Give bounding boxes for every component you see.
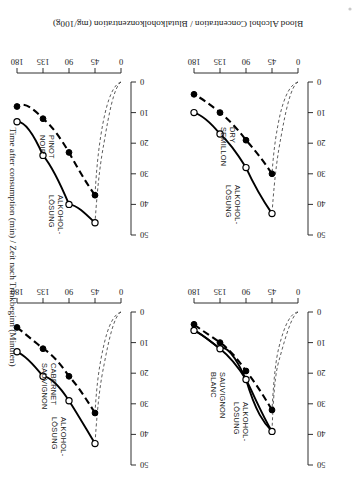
panel-d-ytick-20: 20 <box>140 138 149 148</box>
panel-c-xtick-135: 135 <box>214 57 227 67</box>
panel-c-ytick-20: 20 <box>317 138 326 148</box>
panel-a-point-alcohol-135 <box>217 346 223 352</box>
panel-c-point-wine-45 <box>269 171 275 177</box>
panel-a-label-alcohol-line2: LÖSUNG <box>232 402 241 435</box>
panel-b-xtick-45: 45 <box>91 287 100 297</box>
panel-b-x-axis: 0 45 90 135 180 <box>11 287 124 303</box>
panel-a-point-wine-180 <box>191 321 197 327</box>
panel-c-ytick-10: 10 <box>317 108 326 118</box>
panel-d-point-alcohol-45 <box>92 220 98 226</box>
panel-c-xtick-180: 180 <box>188 57 201 67</box>
panel-b-point-wine-90 <box>66 373 72 379</box>
panel-a-label-wine-line1: SAUVIGNON <box>218 372 227 419</box>
panel-c-label-wine-line1: DRY <box>228 127 237 143</box>
panel-a-xtick-45: 45 <box>268 287 277 297</box>
panel-d-xtick-0: 0 <box>119 57 123 67</box>
panel-a-xtick-180: 180 <box>188 287 201 297</box>
panel-b-ytick-0: 0 <box>140 307 144 317</box>
panel-d-ytick-10: 10 <box>140 108 149 118</box>
panel-a-ytick-30: 30 <box>317 399 326 409</box>
panel-b-ytick-10: 10 <box>140 338 149 348</box>
panel-c-ytick-0: 0 <box>317 77 321 87</box>
panel-pinot-noir: 0 10 20 30 40 50 0 45 90 135 180 <box>11 57 149 240</box>
panel-d-xtick-45: 45 <box>91 57 100 67</box>
panel-d-label-alcohol-line1: ALKOHOL- <box>56 195 65 235</box>
panel-d-rise-solid <box>95 82 121 223</box>
panel-c-rise-solid <box>272 82 298 214</box>
panel-b-label-alcohol-line2: LÖSUNG <box>50 417 59 450</box>
panel-b-point-alcohol-90 <box>66 398 72 404</box>
panel-d-ytick-30: 30 <box>140 169 149 179</box>
panel-b-rise-solid <box>95 312 121 444</box>
panel-dry-semillon: 0 10 20 30 40 50 0 45 90 135 180 <box>188 57 326 240</box>
scan-speck <box>348 7 351 10</box>
panel-b-label-wine-line2: SAUVIGNON <box>40 363 49 410</box>
panel-a-y-axis: 0 10 20 30 40 50 <box>308 307 326 470</box>
panel-c-x-axis: 0 45 90 135 180 <box>188 57 301 73</box>
panel-d-x-axis: 0 45 90 135 180 <box>11 57 124 73</box>
panel-a-label-alcohol-line1: ALKOHOL- <box>241 402 250 442</box>
panel-d-point-wine-45 <box>92 192 98 198</box>
panel-c-point-alcohol-180 <box>191 110 197 116</box>
panel-d-ytick-0: 0 <box>140 77 144 87</box>
panel-c-point-wine-90 <box>243 137 249 143</box>
x-axis-title: Time after consumption (min) / Zeit nach… <box>8 127 18 366</box>
panel-b-xtick-135: 135 <box>37 287 50 297</box>
panel-a-ytick-0: 0 <box>317 307 321 317</box>
panel-c-point-wine-135 <box>217 110 223 116</box>
panel-b-ytick-20: 20 <box>140 368 149 378</box>
panel-sauvignon-blanc: 0 10 20 30 40 50 0 45 90 135 180 <box>188 287 326 470</box>
panel-a-ytick-40: 40 <box>317 429 326 439</box>
panel-b-point-wine-45 <box>92 410 98 416</box>
panel-d-point-wine-135 <box>40 116 46 122</box>
panel-c-label-alcohol-line2: LÖSUNG <box>224 185 233 218</box>
panel-d-xtick-90: 90 <box>65 57 74 67</box>
panel-b-label-alcohol-line1: ALKOHOL- <box>59 417 68 457</box>
panel-d-point-wine-180 <box>14 104 20 110</box>
y-axis-title: Blood Alcohol Concentration / Blutalkoho… <box>53 19 303 29</box>
figure-canvas: 0 10 20 30 40 50 0 45 90 135 180 <box>0 0 356 493</box>
panel-c-ytick-40: 40 <box>317 199 326 209</box>
panel-c-point-alcohol-45 <box>269 211 275 217</box>
panel-c-rise-dashed <box>272 82 298 174</box>
panel-b-ytick-50: 50 <box>140 460 149 470</box>
panel-d-xtick-135: 135 <box>37 57 50 67</box>
panel-a-point-wine-135 <box>217 340 223 346</box>
panel-b-point-wine-135 <box>40 346 46 352</box>
panel-b-point-alcohol-45 <box>92 441 98 447</box>
panel-a-point-alcohol-180 <box>191 327 197 333</box>
panel-c-label-wine-line2: SEMILLON <box>219 127 228 166</box>
panel-d-label-alcohol-line2: LÖSUNG <box>47 195 56 228</box>
panel-b-ytick-40: 40 <box>140 429 149 439</box>
panel-a-x-axis: 0 45 90 135 180 <box>188 287 301 303</box>
panel-c-ytick-30: 30 <box>317 169 326 179</box>
panel-a-point-alcohol-90 <box>243 376 249 382</box>
panel-c-xtick-45: 45 <box>268 57 277 67</box>
panel-a-ytick-20: 20 <box>317 368 326 378</box>
panel-a-rise-dashed <box>272 312 298 410</box>
panel-a-rise-solid <box>272 312 298 431</box>
panel-c-ytick-50: 50 <box>317 230 326 240</box>
panel-a-xtick-135: 135 <box>214 287 227 297</box>
panel-d-xtick-180: 180 <box>11 57 24 67</box>
panel-c-y-axis: 0 10 20 30 40 50 <box>308 77 326 240</box>
panel-b-xtick-90: 90 <box>65 287 74 297</box>
panel-d-point-alcohol-90 <box>66 201 72 207</box>
panel-a-point-wine-45 <box>269 407 275 413</box>
panel-d-ytick-40: 40 <box>140 199 149 209</box>
panel-c-point-wine-180 <box>191 91 197 97</box>
panel-a-point-wine-90 <box>243 368 249 374</box>
panel-a-xtick-0: 0 <box>296 287 300 297</box>
panel-d-point-alcohol-180 <box>14 119 20 125</box>
panel-d-y-axis: 0 10 20 30 40 50 <box>131 77 149 240</box>
panel-b-label-wine-line1: CABERNET <box>49 363 58 405</box>
panel-c-label-alcohol-line1: ALKOHOL- <box>233 185 242 225</box>
panel-a-point-alcohol-45 <box>269 428 275 434</box>
panel-a-ytick-10: 10 <box>317 338 326 348</box>
panel-d-label-wine-line1: PINOT <box>47 135 56 159</box>
panel-a-ytick-50: 50 <box>317 460 326 470</box>
blood-alcohol-figure: 0 10 20 30 40 50 0 45 90 135 180 <box>0 0 356 493</box>
panel-d-label-wine-line2: NOIR <box>38 135 47 154</box>
panel-d-point-wine-90 <box>66 150 72 156</box>
panel-c-xtick-90: 90 <box>242 57 251 67</box>
